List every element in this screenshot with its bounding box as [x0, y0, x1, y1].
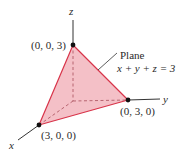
x-axis — [18, 125, 39, 140]
z-axis-label: z — [68, 5, 74, 17]
plane-diagram: z y x (0, 0, 3) (0, 3, 0) (3, 0, 0) Plan… — [0, 0, 191, 161]
point-x-intercept — [37, 123, 42, 128]
point-y-intercept — [126, 98, 131, 103]
annotation-title: Plane — [120, 49, 145, 61]
label-z-intercept: (0, 0, 3) — [31, 39, 66, 52]
y-axis-label: y — [162, 93, 168, 105]
annotation-leader — [98, 53, 117, 70]
label-y-intercept: (0, 3, 0) — [120, 105, 155, 118]
y-axis — [128, 99, 160, 100]
annotation-equation: x + y + z = 3 — [116, 62, 176, 74]
x-axis-label: x — [8, 139, 14, 151]
label-x-intercept: (3, 0, 0) — [41, 129, 76, 142]
point-z-intercept — [71, 43, 76, 48]
